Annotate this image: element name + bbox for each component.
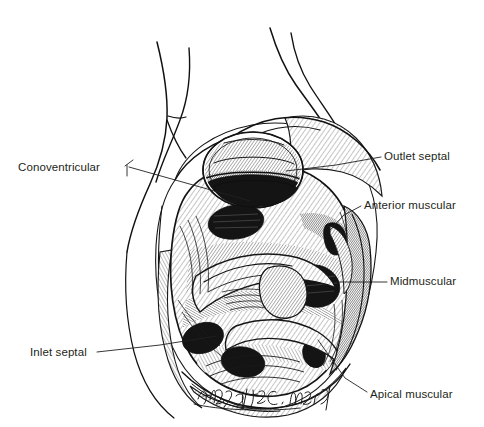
illustration-canvas: Conoventricular Outlet septal Anterior m…	[0, 0, 484, 427]
label-anterior-muscular: Anterior muscular	[364, 199, 456, 211]
label-apical-muscular: Apical muscular	[370, 388, 453, 400]
label-midmuscular: Midmuscular	[390, 275, 456, 287]
anatomical-illustration: Conoventricular Outlet septal Anterior m…	[0, 0, 484, 427]
label-inlet-septal: Inlet septal	[30, 346, 87, 358]
label-outlet-septal: Outlet septal	[384, 150, 450, 162]
label-conoventricular: Conoventricular	[18, 161, 100, 173]
